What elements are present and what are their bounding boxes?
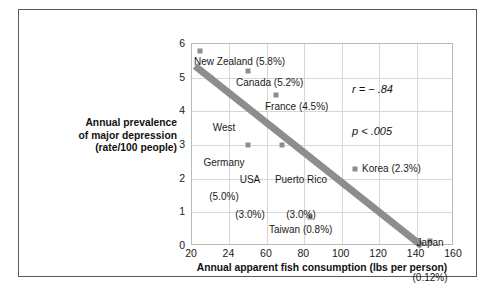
x-tick-100: 100 [332, 247, 350, 259]
label-japan-line-2: (0.12%) [408, 272, 452, 284]
label-taiwan: Taiwan (0.8%) [269, 224, 332, 236]
label-puerto-rico-line-2: (3.0%) [268, 209, 334, 221]
y-tick-3: 3 [179, 138, 185, 150]
correlation-value: r = − .84 [352, 82, 393, 96]
label-france: France (4.5%) [265, 101, 328, 113]
plot-area: New Zealand (5.8%) Canada (5.2%) West Ge… [191, 43, 453, 245]
x-tick-120: 120 [369, 247, 387, 259]
label-canada: Canada (5.2%) [236, 77, 303, 89]
marker-korea[interactable] [352, 166, 357, 171]
x-tick-24: 24 [223, 247, 235, 259]
marker-west-germany[interactable] [208, 75, 213, 80]
label-puerto-rico-line-1: Puerto Rico [268, 174, 334, 186]
y-axis-title-line-2: of major depression [47, 130, 177, 143]
label-usa: USA (3.0%) [230, 151, 270, 243]
y-tick-1: 1 [179, 205, 185, 217]
y-tick-4: 4 [179, 104, 185, 116]
y-tick-6: 6 [179, 37, 185, 49]
marker-puerto-rico[interactable] [279, 143, 284, 148]
marker-new-zealand[interactable] [197, 48, 202, 53]
label-usa-line-1: USA [230, 174, 270, 186]
marker-france[interactable] [274, 92, 279, 97]
y-axis-title-line-1: Annual prevalence [47, 117, 177, 130]
significance-value: p < .005 [352, 124, 393, 138]
x-tick-60: 60 [260, 247, 272, 259]
y-tick-5: 5 [179, 71, 185, 83]
label-new-zealand: New Zealand (5.8%) [194, 56, 285, 68]
label-west-germany-line-1: West [193, 122, 255, 134]
label-usa-line-2: (3.0%) [230, 209, 270, 221]
label-japan-line-1: Japan [408, 237, 452, 249]
y-axis-title-line-3: (rate/100 people) [47, 142, 177, 155]
y-tick-2: 2 [179, 172, 185, 184]
statistics-annotation: r = − .84 p < .005 [352, 54, 393, 166]
chart-frame: Annual prevalence of major depression (r… [18, 9, 477, 277]
y-tick-0: 0 [179, 239, 185, 251]
label-japan: Japan (0.12%) [408, 214, 452, 295]
marker-canada[interactable] [246, 68, 251, 73]
x-tick-80: 80 [297, 247, 309, 259]
x-tick-20: 20 [185, 247, 197, 259]
y-axis-title: Annual prevalence of major depression (r… [47, 117, 177, 155]
